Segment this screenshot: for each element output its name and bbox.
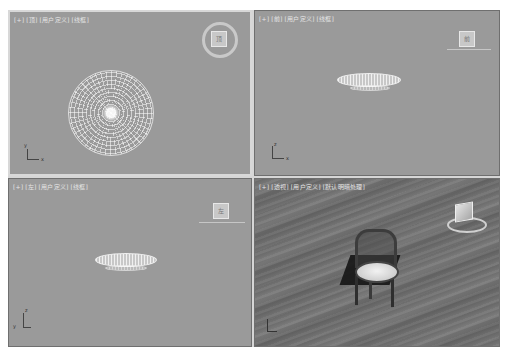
viewcube[interactable]: 左 xyxy=(199,201,245,227)
axis-z-line xyxy=(267,319,268,331)
viewport-front[interactable]: [+][前][用户定义][线框] 前 z x xyxy=(254,10,500,176)
viewport-shading-mode[interactable]: [线框] xyxy=(72,16,89,23)
viewport-shading-mode[interactable]: [线框] xyxy=(71,183,88,190)
viewcube[interactable]: 前 xyxy=(447,29,493,55)
viewport-label-front[interactable]: [+][前][用户定义][线框] xyxy=(259,14,336,23)
viewcube[interactable] xyxy=(445,197,491,237)
axis-x-label: x xyxy=(41,156,44,162)
viewcube-face[interactable]: 左 xyxy=(213,203,229,219)
axis-z-label: z xyxy=(25,307,28,313)
viewport-point-of-view[interactable]: [前] xyxy=(271,15,282,22)
axis-x-line xyxy=(267,331,277,332)
axis-y-label: y xyxy=(13,323,16,329)
chair-seat-wireframe-top[interactable] xyxy=(68,70,154,156)
viewport-shading-mode[interactable]: [线框] xyxy=(317,15,334,22)
viewport-point-of-view[interactable]: [透视] xyxy=(271,183,288,190)
viewport-camera-mode[interactable]: [用户定义] xyxy=(39,183,69,190)
axis-z-label: z xyxy=(274,141,277,147)
viewcube-face[interactable]: 前 xyxy=(459,31,475,47)
chair-seat-cushion[interactable] xyxy=(355,261,399,283)
quad-viewport-layout: [+][顶][用户定义][线框] 顶 y x [+][前][用户定义][线框] … xyxy=(8,10,500,347)
viewport-top[interactable]: [+][顶][用户定义][线框] 顶 y x xyxy=(8,10,252,176)
chair-leg xyxy=(355,275,358,305)
axis-tripod: z x xyxy=(269,146,299,166)
chair-seat-underside-left xyxy=(105,265,147,271)
viewcube-compass-line[interactable] xyxy=(199,222,245,223)
chair-seat-underside-front xyxy=(350,85,390,91)
viewport-point-of-view[interactable]: [顶] xyxy=(26,16,37,23)
axis-z-line xyxy=(272,146,273,158)
axis-y-label: y xyxy=(24,142,27,148)
viewport-menu-plus[interactable]: [+] xyxy=(259,15,269,22)
viewport-shading-mode[interactable]: [默认明暗处理] xyxy=(323,183,365,190)
viewport-menu-plus[interactable]: [+] xyxy=(14,16,24,23)
axis-x-line xyxy=(272,158,284,159)
viewport-point-of-view[interactable]: [左] xyxy=(25,183,36,190)
axis-tripod xyxy=(261,319,291,339)
viewport-label-perspective[interactable]: [+][透视][用户定义][默认明暗处理] xyxy=(259,182,367,191)
viewport-label-top[interactable]: [+][顶][用户定义][线框] xyxy=(14,15,91,24)
viewport-camera-mode[interactable]: [用户定义] xyxy=(291,183,321,190)
axis-y-line xyxy=(27,149,28,159)
viewcube-face[interactable]: 顶 xyxy=(211,31,227,47)
viewport-camera-mode[interactable]: [用户定义] xyxy=(40,16,70,23)
axis-z-line xyxy=(23,313,24,327)
viewport-label-left[interactable]: [+][左][用户定义][线框] xyxy=(13,182,90,191)
viewcube-3d-cube[interactable] xyxy=(455,201,473,222)
axis-tripod: y x xyxy=(24,147,54,167)
viewport-left[interactable]: [+][左][用户定义][线框] 左 z y xyxy=(8,178,252,347)
viewport-camera-mode[interactable]: [用户定义] xyxy=(285,15,315,22)
axis-x-label: x xyxy=(286,155,289,161)
viewcube-compass-line[interactable] xyxy=(447,49,491,50)
axis-y-line xyxy=(23,327,31,328)
axis-tripod: z y xyxy=(13,311,43,335)
viewport-menu-plus[interactable]: [+] xyxy=(259,183,269,190)
viewcube[interactable]: 顶 xyxy=(200,20,240,60)
viewport-perspective[interactable]: [+][透视][用户定义][默认明暗处理] xyxy=(254,178,500,347)
viewport-menu-plus[interactable]: [+] xyxy=(13,183,23,190)
axis-x-line xyxy=(27,159,39,160)
